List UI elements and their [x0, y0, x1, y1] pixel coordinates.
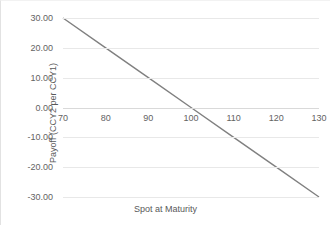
gridline-y--10 — [63, 137, 319, 138]
gridline-y-20 — [63, 48, 319, 49]
gridline-y--30 — [63, 197, 319, 198]
x-tick-label: 130 — [311, 113, 326, 123]
x-tick-label: 100 — [183, 113, 198, 123]
gridline-y--20 — [63, 167, 319, 168]
y-tick-label: 20.00 — [1, 43, 53, 53]
gridline-y-0 — [63, 108, 319, 109]
gridline-y-10 — [63, 78, 319, 79]
y-tick-label: -30.00 — [1, 192, 53, 202]
x-axis-title: Spot at Maturity — [1, 204, 330, 214]
y-tick-label: 0.00 — [1, 103, 53, 113]
y-tick-label: -20.00 — [1, 162, 53, 172]
x-tick-label: 110 — [226, 113, 240, 123]
y-tick-label: 10.00 — [1, 73, 53, 83]
x-tick-label: 90 — [143, 113, 153, 123]
x-tick-label: 120 — [269, 113, 284, 123]
x-tick-label: 80 — [101, 113, 111, 123]
plot-area — [63, 18, 319, 197]
y-tick-label: -10.00 — [1, 132, 53, 142]
gridline-y-30 — [63, 18, 319, 19]
y-tick-label: 30.00 — [1, 13, 53, 23]
chart-container: Payoff (CCY2 per CCY1) Spot at Maturity … — [0, 0, 330, 225]
x-tick-label: 70 — [58, 113, 68, 123]
